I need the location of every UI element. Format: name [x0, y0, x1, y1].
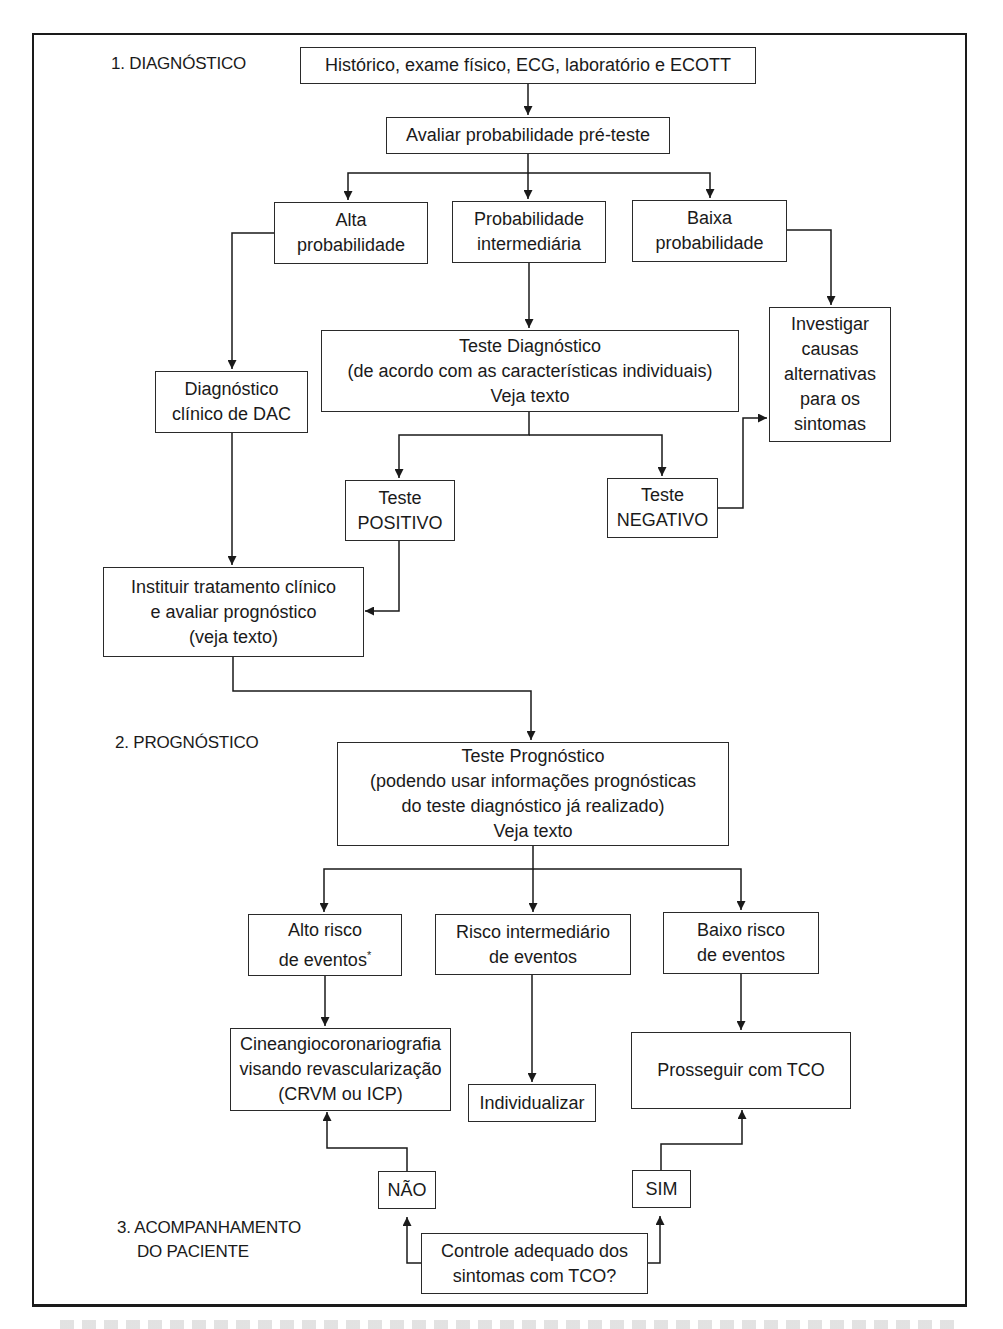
node-text: (podendo usar informações prognósticas — [370, 769, 696, 794]
node-text: sintomas com TCO? — [453, 1264, 617, 1289]
node-text: Teste Diagnóstico — [459, 334, 601, 359]
node-text: de eventos — [697, 943, 785, 968]
node-historico: Histórico, exame físico, ECG, laboratóri… — [300, 47, 756, 84]
node-nao: NÃO — [378, 1171, 436, 1209]
section-label-acompanhamento: 3. ACOMPANHAMENTO DO PACIENTE — [117, 1216, 301, 1264]
node-prosseguir-tco: Prosseguir com TCO — [631, 1032, 851, 1109]
node-alto-risco: Alto risco de eventos* — [248, 914, 402, 976]
node-text: Investigar — [791, 312, 869, 337]
node-teste-diagnostico: Teste Diagnóstico (de acordo com as cara… — [321, 330, 739, 412]
node-text: Avaliar probabilidade pré-teste — [406, 123, 650, 148]
node-individualizar: Individualizar — [468, 1084, 596, 1122]
node-text: probabilidade — [655, 231, 763, 256]
node-text: (de acordo com as características indivi… — [347, 359, 712, 384]
node-text: Individualizar — [479, 1091, 584, 1116]
node-text: Controle adequado dos — [441, 1239, 628, 1264]
node-teste-negativo: Teste NEGATIVO — [607, 478, 718, 538]
node-text: de eventos — [489, 945, 577, 970]
node-text: intermediária — [477, 232, 581, 257]
node-text: para os — [800, 387, 860, 412]
node-text: Baixo risco — [697, 918, 785, 943]
section-label-line: DO PACIENTE — [117, 1240, 301, 1264]
node-text: Instituir tratamento clínico — [131, 575, 336, 600]
node-baixa-probabilidade: Baixa probabilidade — [632, 200, 787, 262]
node-text: alternativas — [784, 362, 876, 387]
section-label-line: 3. ACOMPANHAMENTO — [117, 1216, 301, 1240]
node-risco-intermediario: Risco intermediário de eventos — [435, 914, 631, 975]
node-text: e avaliar prognóstico — [150, 600, 316, 625]
node-text: Teste — [641, 483, 684, 508]
node-text: sintomas — [794, 412, 866, 437]
node-text-inner: de eventos — [279, 950, 367, 970]
node-text: de eventos* — [279, 943, 371, 973]
node-text: clínico de DAC — [172, 402, 291, 427]
node-text: Histórico, exame físico, ECG, laboratóri… — [325, 53, 731, 78]
node-text: Teste — [378, 486, 421, 511]
cut-off-caption — [60, 1320, 960, 1329]
node-teste-positivo: Teste POSITIVO — [345, 480, 455, 541]
node-text: Veja texto — [490, 384, 569, 409]
node-text: Baixa — [687, 206, 732, 231]
node-text: Cineangiocoronariografia — [240, 1032, 441, 1057]
node-text: causas — [801, 337, 858, 362]
node-controle-sintomas: Controle adequado dos sintomas com TCO? — [421, 1233, 648, 1294]
node-text: Alto risco — [288, 918, 362, 943]
node-text: probabilidade — [297, 233, 405, 258]
node-instituir-tratamento: Instituir tratamento clínico e avaliar p… — [103, 567, 364, 657]
node-text: Risco intermediário — [456, 920, 610, 945]
section-label-diagnostico: 1. DIAGNÓSTICO — [111, 52, 246, 76]
node-text: Prosseguir com TCO — [657, 1058, 825, 1083]
node-text: do teste diagnóstico já realizado) — [401, 794, 664, 819]
node-text: Veja texto — [493, 819, 572, 844]
node-text: Diagnóstico — [184, 377, 278, 402]
node-text: SIM — [645, 1177, 677, 1202]
node-text: (CRVM ou ICP) — [278, 1082, 403, 1107]
node-text: NÃO — [387, 1178, 426, 1203]
section-label-prognostico: 2. PROGNÓSTICO — [115, 731, 259, 755]
footnote-marker: * — [367, 949, 371, 961]
node-alta-probabilidade: Alta probabilidade — [274, 202, 428, 264]
node-teste-prognostico: Teste Prognóstico (podendo usar informaç… — [337, 742, 729, 846]
node-sim: SIM — [632, 1170, 691, 1208]
node-cineangiocoronariografia: Cineangiocoronariografia visando revascu… — [230, 1028, 451, 1111]
node-text: Teste Prognóstico — [461, 744, 604, 769]
node-text: Probabilidade — [474, 207, 584, 232]
node-text: visando revascularização — [239, 1057, 441, 1082]
node-text: POSITIVO — [357, 511, 442, 536]
node-text: (veja texto) — [189, 625, 278, 650]
node-baixo-risco: Baixo risco de eventos — [663, 912, 819, 974]
node-text: Alta — [335, 208, 366, 233]
node-diagnostico-clinico: Diagnóstico clínico de DAC — [155, 371, 308, 433]
node-text: NEGATIVO — [617, 508, 709, 533]
node-avaliar-probabilidade: Avaliar probabilidade pré-teste — [386, 117, 670, 154]
node-probabilidade-intermediaria: Probabilidade intermediária — [452, 201, 606, 263]
node-investigar-causas: Investigar causas alternativas para os s… — [769, 307, 891, 442]
